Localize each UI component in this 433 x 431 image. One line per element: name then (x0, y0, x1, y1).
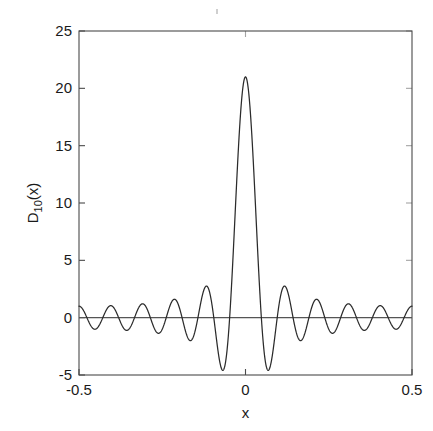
x-axis-title: x (242, 404, 250, 421)
y-axis-title-arg: (x) (24, 183, 41, 201)
scan-speck (216, 9, 218, 14)
data-curve-dirichlet (79, 77, 412, 371)
figure-canvas: 25 20 15 10 5 0 -5 -0.5 0 0.5 x D10(x) (0, 0, 433, 431)
svg-text:D10(x): D10(x) (24, 183, 44, 224)
y-axis-ticks-right (406, 31, 412, 318)
y-axis-title-subscript: 10 (32, 200, 44, 212)
x-tick-label-neg-half: -0.5 (66, 381, 92, 398)
x-tick-label-pos-half: 0.5 (402, 381, 423, 398)
plot-frame (79, 31, 412, 375)
y-tick-label-20: 20 (55, 79, 72, 96)
y-tick-label-10: 10 (55, 194, 72, 211)
y-tick-label-15: 15 (55, 137, 72, 154)
y-axis-title: D10(x) (24, 183, 44, 224)
dirichlet-kernel-chart: 25 20 15 10 5 0 -5 -0.5 0 0.5 x D10(x) (0, 0, 433, 431)
y-tick-label-5: 5 (64, 251, 72, 268)
y-tick-label-0: 0 (64, 309, 72, 326)
x-axis-ticks (79, 369, 412, 375)
y-axis-ticks (79, 31, 85, 375)
y-axis-title-base: D (24, 212, 41, 223)
y-tick-label-25: 25 (55, 22, 72, 39)
x-tick-label-zero: 0 (241, 381, 249, 398)
